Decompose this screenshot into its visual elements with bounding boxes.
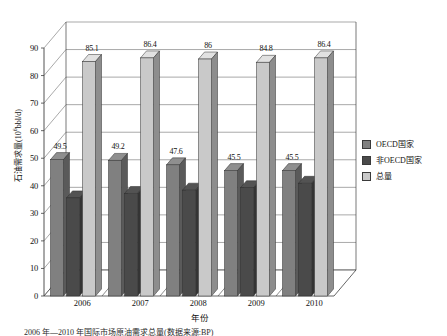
- x-axis-title: 年份: [140, 311, 260, 323]
- legend-swatch-icon: [362, 156, 371, 165]
- y-axis-title-tail: bbl/d): [14, 109, 23, 128]
- bar-value-label: 86: [188, 41, 228, 50]
- legend-label: 总量: [376, 172, 392, 181]
- bar-side-face: [96, 55, 102, 296]
- bar-side-face: [212, 52, 218, 296]
- bar-front-face: [257, 62, 270, 296]
- legend-item[interactable]: OECD国家: [362, 140, 422, 149]
- gridline-depth-connector: [44, 105, 66, 131]
- bar-front-face: [199, 59, 212, 296]
- x-tick-label: 2008: [173, 298, 223, 308]
- bar-value-label: 85.1: [72, 44, 112, 53]
- bar-front-face: [83, 62, 96, 296]
- bar-front-face: [167, 165, 180, 296]
- chart-plot-area: 0102030405060708090 20062007200820092010…: [0, 0, 447, 336]
- gridline-depth-connector: [44, 77, 66, 103]
- bar-front-face: [315, 58, 328, 296]
- bar-front-face: [299, 183, 312, 296]
- bar-front-face: [67, 198, 80, 296]
- bar-value-label: 47.6: [156, 147, 196, 156]
- gridline-depth-connector: [44, 22, 66, 48]
- y-axis-title: 石油需求量(106bbl/d): [12, 91, 23, 201]
- bar-side-face: [270, 55, 276, 296]
- bar-front-face: [109, 160, 122, 296]
- legend-label: 非OECD国家: [376, 156, 422, 165]
- legend-swatch-icon: [362, 172, 371, 181]
- y-tick-label: 30: [16, 208, 38, 218]
- bar-front-face: [141, 58, 154, 296]
- bar-front-face: [125, 193, 138, 296]
- bar-front-face: [183, 190, 196, 296]
- x-tick-label: 2010: [289, 298, 339, 308]
- gridline-depth-connector: [44, 50, 66, 76]
- bar-front-face: [51, 160, 64, 296]
- bar-front-face: [283, 171, 296, 296]
- y-axis-title-exponent: 6: [12, 128, 18, 131]
- bar-side-face: [328, 51, 334, 296]
- bar-front-face: [241, 188, 254, 296]
- legend-item[interactable]: 总量: [362, 172, 422, 181]
- bar-value-label: 49.2: [98, 142, 138, 151]
- y-tick-label: 0: [16, 291, 38, 301]
- bar-value-label: 86.4: [304, 40, 344, 49]
- bar-value-label: 86.4: [130, 40, 170, 49]
- x-tick-label: 2007: [115, 298, 165, 308]
- legend-item[interactable]: 非OECD国家: [362, 156, 422, 165]
- y-tick-label: 10: [16, 263, 38, 273]
- legend-label: OECD国家: [376, 140, 414, 149]
- bar-front-face: [225, 171, 238, 296]
- x-tick-label: 2006: [57, 298, 107, 308]
- bar-value-label: 45.5: [214, 153, 254, 162]
- bar-value-label: 49.5: [40, 142, 80, 151]
- y-tick-label: 90: [16, 43, 38, 53]
- x-tick-label: 2009: [231, 298, 281, 308]
- legend-swatch-icon: [362, 140, 371, 149]
- bar-value-label: 84.8: [246, 44, 286, 53]
- bar-side-face: [154, 51, 160, 296]
- figure-caption: 2006 年―2010 年国际市场原油需求总量(数据来源:BP): [24, 326, 444, 336]
- y-tick-label: 20: [16, 236, 38, 246]
- bar-value-label: 45.5: [272, 153, 312, 162]
- y-axis-title-base: 石油需求量(10: [14, 131, 23, 182]
- y-tick-label: 80: [16, 71, 38, 81]
- figure-root: 0102030405060708090 20062007200820092010…: [0, 0, 447, 336]
- chart-legend: OECD国家非OECD国家总量: [362, 140, 422, 188]
